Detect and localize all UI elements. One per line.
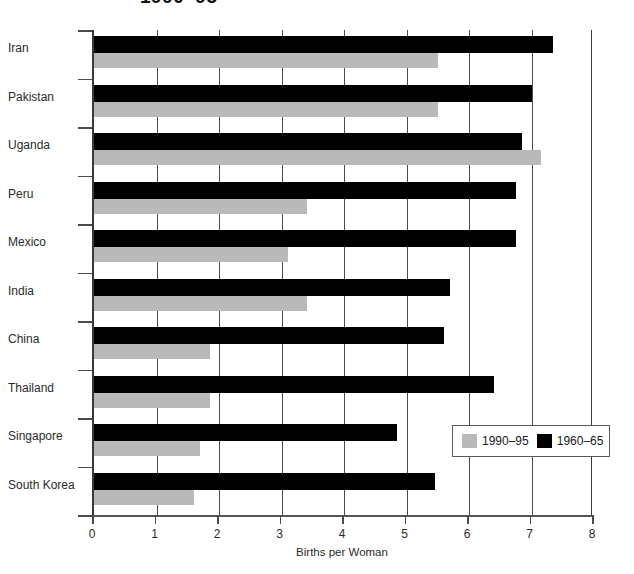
bar-recent — [94, 441, 200, 456]
category-label-mexico: Mexico — [8, 235, 46, 249]
x-tick-label: 2 — [214, 527, 221, 541]
legend-label-recent: 1990–95 — [482, 434, 529, 448]
legend-swatch-recent — [462, 434, 477, 448]
category-label-india: India — [8, 284, 34, 298]
bar-recent — [94, 247, 288, 262]
legend-item-recent: 1990–95 — [462, 434, 529, 448]
bar-recent — [94, 199, 307, 214]
x-tick — [530, 515, 532, 524]
bar-older — [94, 279, 450, 296]
x-tick-label: 1 — [151, 527, 158, 541]
bar-recent — [94, 53, 438, 68]
x-tick — [342, 515, 344, 524]
bar-older — [94, 424, 397, 441]
x-tick-label: 5 — [401, 527, 408, 541]
x-tick-label: 3 — [276, 527, 283, 541]
bar-older — [94, 327, 444, 344]
category-label-singapore: Singapore — [8, 429, 63, 443]
y-tick — [78, 418, 92, 420]
legend-item-older: 1960–65 — [537, 434, 604, 448]
bar-recent — [94, 150, 541, 165]
category-label-uganda: Uganda — [8, 138, 50, 152]
x-tick-label: 6 — [464, 527, 471, 541]
bar-older — [94, 376, 494, 393]
bar-older — [94, 182, 516, 199]
bar-older — [94, 133, 522, 150]
x-tick-label: 8 — [589, 527, 596, 541]
y-tick — [78, 273, 92, 275]
y-tick — [78, 127, 92, 129]
y-tick — [78, 176, 92, 178]
category-label-peru: Peru — [8, 187, 33, 201]
x-tick-label: 4 — [339, 527, 346, 541]
category-label-thailand: Thailand — [8, 381, 54, 395]
y-tick — [78, 321, 92, 323]
bar-recent — [94, 344, 210, 359]
y-tick — [78, 30, 92, 32]
x-tick — [592, 515, 594, 524]
x-tick — [405, 515, 407, 524]
legend-swatch-older — [537, 434, 552, 448]
y-tick — [78, 515, 92, 517]
x-tick — [467, 515, 469, 524]
category-label-pakistan: Pakistan — [8, 90, 54, 104]
x-tick-label: 0 — [89, 527, 96, 541]
chart-legend: 1990–95 1960–65 — [452, 425, 610, 457]
x-tick — [92, 515, 94, 524]
x-tick — [155, 515, 157, 524]
bar-older — [94, 36, 553, 53]
y-tick — [78, 370, 92, 372]
bar-recent — [94, 490, 194, 505]
bar-recent — [94, 296, 307, 311]
y-tick — [78, 79, 92, 81]
x-axis-title: Births per Woman — [92, 546, 592, 558]
category-label-china: China — [8, 332, 39, 346]
x-tick — [217, 515, 219, 524]
legend-label-older: 1960–65 — [557, 434, 604, 448]
y-tick — [78, 224, 92, 226]
category-label-iran: Iran — [8, 41, 29, 55]
x-tick — [280, 515, 282, 524]
bar-older — [94, 230, 516, 247]
bar-recent — [94, 393, 210, 408]
bar-chart: 1990–95 012345678 Births per Woman IranP… — [0, 0, 634, 574]
category-label-south-korea: South Korea — [8, 478, 75, 492]
bar-older — [94, 473, 435, 490]
x-tick-label: 7 — [526, 527, 533, 541]
chart-title: 1990–95 — [140, 0, 217, 8]
y-tick — [78, 467, 92, 469]
bar-recent — [94, 102, 438, 117]
bar-older — [94, 85, 532, 102]
